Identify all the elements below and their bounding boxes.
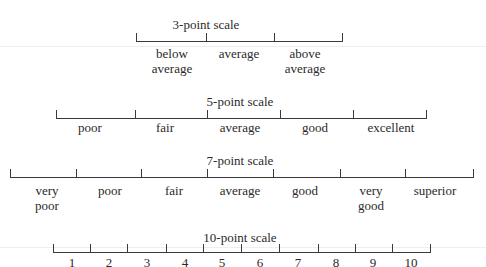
scale-label: very good (358, 183, 384, 213)
scale-label: fair (165, 183, 183, 198)
scale-tick (392, 244, 393, 253)
scale-label: 6 (257, 255, 264, 267)
scale-tick (355, 244, 356, 253)
scale-label: good (292, 183, 318, 198)
scale-tick (10, 169, 11, 178)
scale-tick (166, 244, 167, 253)
rating-scales-diagram: 3-point scalebelow averageaverageabove a… (0, 0, 486, 267)
scale-tick (207, 110, 208, 119)
scale-tick (56, 110, 57, 119)
scale-tick (203, 244, 204, 253)
scale-label: average (220, 183, 260, 198)
scale-tick (280, 110, 281, 119)
scale-label: fair (156, 120, 174, 135)
scale-label: 5 (219, 255, 226, 267)
scale-label: very poor (35, 183, 59, 213)
scale-title: 10-point scale (203, 230, 276, 245)
scale-tick (318, 244, 319, 253)
scale-title: 7-point scale (207, 153, 274, 168)
scale-tick (473, 169, 474, 178)
scale-label: above average (285, 46, 325, 76)
scale-tick (90, 244, 91, 253)
scale-tick (340, 169, 341, 178)
scale-label: superior (414, 183, 457, 198)
scale-tick (135, 110, 136, 119)
scale-label: average (219, 46, 259, 61)
scan-artifact-line (0, 247, 486, 248)
scale-tick (207, 169, 208, 178)
scale-label: 8 (333, 255, 340, 267)
scale-tick (136, 33, 137, 42)
scale-label: 3 (144, 255, 151, 267)
scale-tick (430, 244, 431, 253)
scale-tick (279, 244, 280, 253)
scale-label: 4 (182, 255, 189, 267)
scale-label: excellent (368, 120, 415, 135)
scale-tick (426, 110, 427, 119)
scale-tick (53, 244, 54, 253)
scale-tick (76, 169, 77, 178)
scale-tick (274, 33, 275, 42)
scale-label: good (302, 120, 328, 135)
scale-tick (241, 244, 242, 253)
scale-tick (405, 169, 406, 178)
scale-axis-line (136, 41, 342, 42)
scale-tick (353, 110, 354, 119)
scale-axis-line (10, 177, 473, 178)
scale-tick (206, 33, 207, 42)
scale-tick (141, 169, 142, 178)
scale-tick (127, 244, 128, 253)
scale-label: poor (98, 183, 122, 198)
scale-title: 3-point scale (173, 17, 240, 32)
scale-title: 5-point scale (207, 94, 274, 109)
scale-label: 2 (106, 255, 113, 267)
scale-label: poor (78, 120, 102, 135)
scale-label: average (220, 120, 260, 135)
scale-tick (273, 169, 274, 178)
scale-label: 1 (69, 255, 76, 267)
scale-tick (342, 33, 343, 42)
scale-label: 7 (295, 255, 302, 267)
scale-label: 10 (405, 255, 418, 267)
scale-label: 9 (370, 255, 377, 267)
scale-label: below average (152, 46, 192, 76)
